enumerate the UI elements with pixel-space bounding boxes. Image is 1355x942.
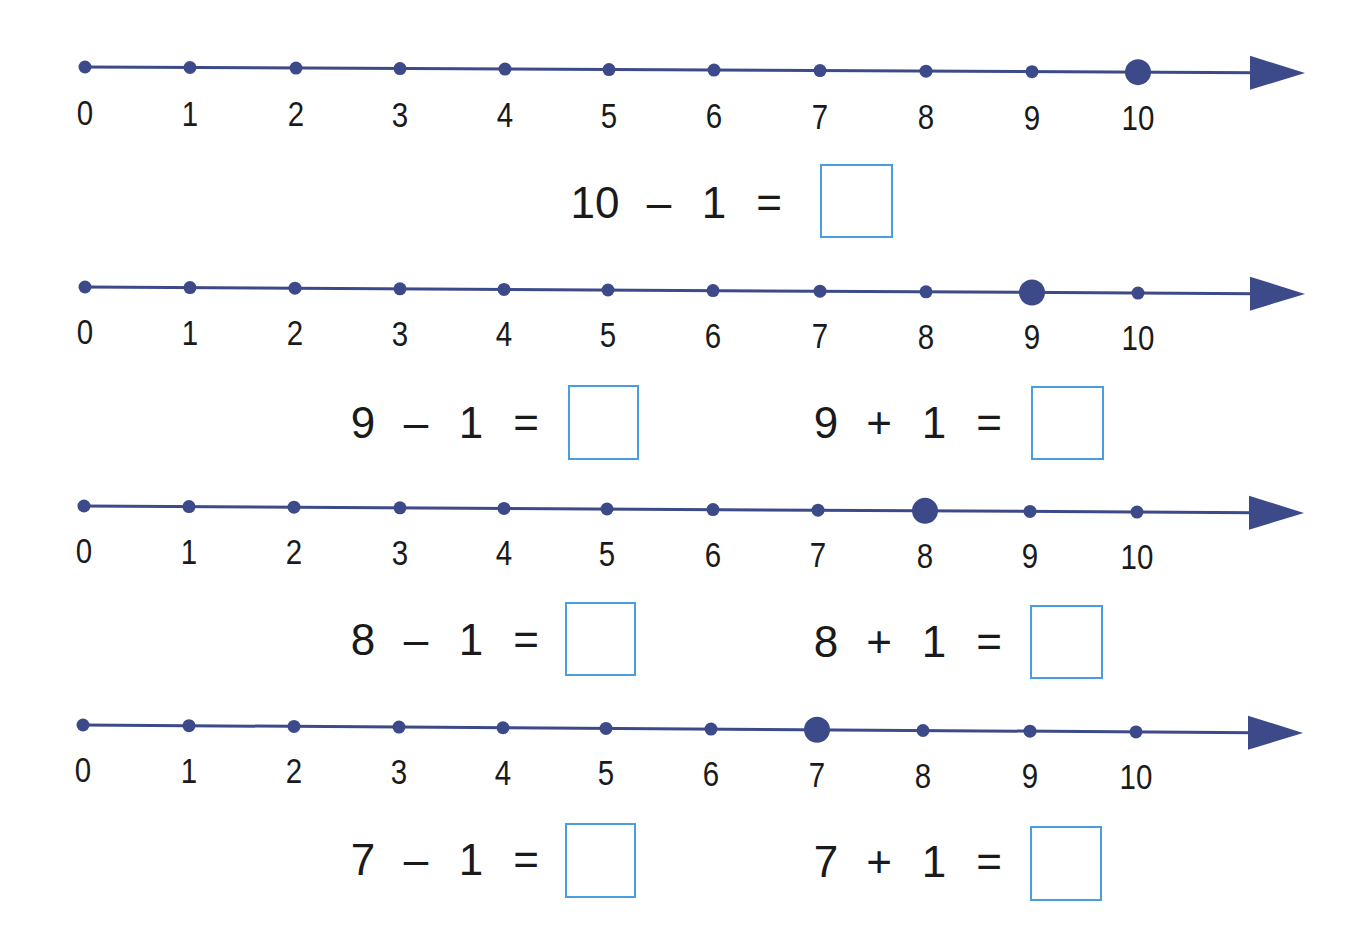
operand-a: 8 [808, 617, 844, 667]
tick-point [393, 721, 406, 734]
tick-label: 1 [181, 750, 197, 790]
number-line-4: 012345678910 [75, 716, 1303, 797]
tick-point [183, 719, 196, 732]
tick-point [79, 61, 92, 74]
highlighted-point [804, 717, 830, 743]
tick-point [1026, 65, 1039, 78]
axis-line [84, 506, 1254, 513]
tick-point [183, 500, 196, 513]
tick-label: 2 [286, 531, 302, 571]
tick-point [498, 283, 511, 296]
tick-point [707, 503, 720, 516]
tick-label: 10 [1121, 536, 1154, 576]
highlighted-point [1125, 59, 1151, 85]
tick-label: 3 [392, 532, 408, 572]
operator: + [844, 617, 914, 667]
tick-label: 10 [1122, 317, 1155, 357]
answer-box[interactable] [565, 602, 636, 676]
tick-label: 8 [917, 535, 933, 575]
tick-point [497, 721, 510, 734]
tick-label: 10 [1122, 97, 1155, 137]
highlighted-point [912, 498, 938, 524]
tick-point [77, 719, 90, 732]
tick-label: 5 [599, 533, 615, 573]
tick-label: 5 [600, 314, 616, 354]
tick-label: 3 [392, 313, 408, 353]
operand-a: 7 [808, 837, 844, 887]
tick-point [499, 63, 512, 76]
tick-point [920, 285, 933, 298]
tick-label: 2 [287, 312, 303, 352]
answer-box[interactable] [1031, 386, 1104, 460]
answer-box[interactable] [1030, 826, 1102, 901]
equation-7: 7+1= [808, 824, 1024, 900]
tick-point [288, 501, 301, 514]
tick-label: 6 [705, 534, 721, 574]
tick-point [498, 502, 511, 515]
tick-point [1024, 725, 1037, 738]
worksheet: 0123456789100123456789100123456789100123… [0, 0, 1355, 942]
tick-point [708, 64, 721, 77]
operand-b: 1 [694, 178, 734, 228]
axis-line [85, 287, 1255, 294]
tick-label: 8 [918, 316, 934, 356]
tick-label: 4 [497, 94, 513, 134]
axis-line [85, 67, 1255, 73]
operator: + [844, 398, 914, 448]
tick-point [812, 504, 825, 517]
tick-point [1024, 505, 1037, 518]
tick-point [1132, 287, 1145, 300]
equals-sign: = [491, 615, 561, 665]
equals-sign: = [954, 398, 1024, 448]
answer-box[interactable] [568, 385, 639, 460]
tick-label: 7 [812, 315, 828, 355]
tick-label: 3 [391, 751, 407, 791]
equals-sign: = [954, 837, 1024, 887]
answer-box[interactable] [1030, 605, 1103, 679]
operand-a: 7 [345, 835, 381, 885]
arrow-head-icon [1250, 56, 1305, 90]
tick-label: 0 [77, 92, 93, 132]
operand-a: 8 [345, 615, 381, 665]
tick-label: 7 [809, 754, 825, 794]
operand-a: 9 [808, 398, 844, 448]
highlighted-point [1019, 279, 1045, 305]
tick-point [1130, 725, 1143, 738]
answer-box[interactable] [820, 164, 893, 238]
operand-b: 1 [914, 837, 954, 887]
operand-b: 1 [451, 615, 491, 665]
tick-label: 10 [1120, 756, 1153, 796]
answer-box[interactable] [565, 823, 636, 898]
operand-a: 10 [566, 178, 624, 228]
tick-label: 9 [1022, 536, 1038, 576]
tick-point [184, 281, 197, 294]
tick-point [814, 64, 827, 77]
operand-b: 1 [451, 398, 491, 448]
tick-point [79, 281, 92, 294]
tick-point [603, 63, 616, 76]
tick-point [705, 723, 718, 736]
arrow-head-icon [1249, 496, 1304, 530]
arrow-head-icon [1250, 277, 1305, 311]
arrow-head-icon [1248, 716, 1303, 750]
tick-point [288, 720, 301, 733]
operand-a: 9 [345, 398, 381, 448]
operator: – [381, 615, 451, 665]
equation-6: 7–1= [345, 822, 561, 898]
equation-2: 9–1= [345, 385, 561, 461]
tick-label: 9 [1024, 97, 1040, 137]
number-line-3: 012345678910 [76, 496, 1304, 577]
operand-b: 1 [451, 835, 491, 885]
tick-point [602, 284, 615, 297]
tick-label: 7 [810, 534, 826, 574]
equation-1: 10–1= [566, 165, 804, 241]
tick-point [394, 282, 407, 295]
tick-point [917, 724, 930, 737]
tick-point [289, 282, 302, 295]
tick-label: 1 [182, 93, 198, 133]
operator: + [844, 837, 914, 887]
operand-b: 1 [914, 398, 954, 448]
tick-point [78, 500, 91, 513]
tick-point [1131, 506, 1144, 519]
tick-label: 4 [496, 533, 512, 573]
